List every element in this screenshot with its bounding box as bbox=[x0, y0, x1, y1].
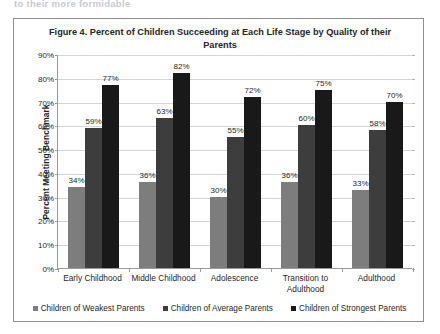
x-axis-category-label: Early Childhood bbox=[57, 273, 128, 284]
bar-value-label: 77% bbox=[102, 74, 118, 83]
bar-group: 36%63%82% bbox=[129, 55, 200, 268]
bar-slot: 36% bbox=[281, 54, 298, 268]
bar-value-label: 60% bbox=[298, 114, 314, 123]
legend-label: Children of Weakest Parents bbox=[41, 304, 145, 313]
y-axis-tick-label: 30% bbox=[38, 193, 54, 202]
bar-slot: 60% bbox=[298, 54, 315, 268]
bar-value-label: 72% bbox=[244, 86, 260, 95]
bar-value-label: 33% bbox=[352, 179, 368, 188]
bar-slot: 34% bbox=[68, 54, 85, 268]
legend-swatch-icon bbox=[33, 306, 38, 311]
bar-value-label: 63% bbox=[156, 107, 172, 116]
bar[interactable] bbox=[139, 182, 156, 268]
bar[interactable] bbox=[227, 137, 244, 268]
bar-slot: 77% bbox=[102, 54, 119, 268]
bar-value-label: 59% bbox=[85, 117, 101, 126]
y-axis-tick-label: 40% bbox=[38, 169, 54, 178]
bar-slot: 72% bbox=[244, 54, 261, 268]
x-axis-tick-mark bbox=[129, 268, 130, 272]
bar[interactable] bbox=[210, 197, 227, 268]
y-axis-tick-label: 80% bbox=[38, 74, 54, 83]
bar-value-label: 75% bbox=[315, 79, 331, 88]
y-axis-tick-label: 10% bbox=[38, 241, 54, 250]
bar-value-label: 36% bbox=[139, 171, 155, 180]
bar-value-label: 36% bbox=[281, 171, 297, 180]
bar[interactable] bbox=[85, 128, 102, 268]
bar-value-label: 30% bbox=[210, 186, 226, 195]
legend-item[interactable]: Children of Weakest Parents bbox=[33, 304, 145, 313]
y-axis-tick-label: 0% bbox=[42, 265, 54, 274]
plot-area: 0%10%20%30%40%50%60%70%80%90% 34%59%77%3… bbox=[57, 55, 412, 269]
y-axis-tick-label: 70% bbox=[38, 98, 54, 107]
legend-label: Children of Strongest Parents bbox=[299, 304, 406, 313]
x-axis-category-labels: Early ChildhoodMiddle ChildhoodAdolescen… bbox=[57, 273, 412, 303]
bar[interactable] bbox=[102, 85, 119, 268]
bar-slot: 30% bbox=[210, 54, 227, 268]
bar-value-label: 58% bbox=[369, 119, 385, 128]
legend-item[interactable]: Children of Average Parents bbox=[163, 304, 273, 313]
bar[interactable] bbox=[315, 90, 332, 268]
legend-label: Children of Average Parents bbox=[171, 304, 273, 313]
y-axis-tick-label: 60% bbox=[38, 122, 54, 131]
bar[interactable] bbox=[68, 187, 85, 268]
bar-value-label: 82% bbox=[173, 62, 189, 71]
x-axis-category-label: Adolescence bbox=[199, 273, 270, 284]
x-axis-tick-mark bbox=[271, 268, 272, 272]
y-axis-tick-label: 50% bbox=[38, 146, 54, 155]
x-axis-tick-mark bbox=[200, 268, 201, 272]
scan-artifact-text: to their more formidable bbox=[14, 0, 224, 9]
figure-frame: Figure 4. Percent of Children Succeeding… bbox=[13, 18, 424, 322]
y-axis-tick-label: 20% bbox=[38, 217, 54, 226]
bar[interactable] bbox=[173, 73, 190, 268]
x-axis-category-label: Middle Childhood bbox=[128, 273, 199, 284]
bar[interactable] bbox=[244, 97, 261, 268]
bar-slot: 55% bbox=[227, 54, 244, 268]
bar[interactable] bbox=[281, 182, 298, 268]
bar-slot: 59% bbox=[85, 54, 102, 268]
bar-value-label: 55% bbox=[227, 126, 243, 135]
bar-value-label: 70% bbox=[386, 91, 402, 100]
x-axis-category-label: Transition to Adulthood bbox=[270, 273, 341, 295]
bar-group: 33%58%70% bbox=[342, 55, 413, 268]
chart-legend: Children of Weakest ParentsChildren of A… bbox=[27, 304, 412, 313]
x-axis-category-label: Adulthood bbox=[341, 273, 412, 284]
x-axis-tick-mark bbox=[413, 268, 414, 272]
legend-swatch-icon bbox=[163, 306, 168, 311]
bar-slot: 82% bbox=[173, 54, 190, 268]
bar-group: 34%59%77% bbox=[58, 55, 129, 268]
bar[interactable] bbox=[352, 190, 369, 268]
bar-slot: 36% bbox=[139, 54, 156, 268]
x-axis-tick-mark bbox=[342, 268, 343, 272]
legend-item[interactable]: Children of Strongest Parents bbox=[291, 304, 406, 313]
bar[interactable] bbox=[156, 118, 173, 268]
x-axis-tick-mark bbox=[58, 268, 59, 272]
bar[interactable] bbox=[369, 130, 386, 268]
bar-slot: 58% bbox=[369, 54, 386, 268]
bar[interactable] bbox=[386, 102, 403, 268]
bar-slot: 33% bbox=[352, 54, 369, 268]
bar-slot: 63% bbox=[156, 54, 173, 268]
chart-title: Figure 4. Percent of Children Succeeding… bbox=[40, 26, 400, 51]
bar-group: 30%55%72% bbox=[200, 55, 271, 268]
bar-group: 36%60%75% bbox=[271, 55, 342, 268]
y-axis-tick-label: 90% bbox=[38, 51, 54, 60]
bar-groups: 34%59%77%36%63%82%30%55%72%36%60%75%33%5… bbox=[58, 55, 412, 268]
bar[interactable] bbox=[298, 125, 315, 268]
bar-value-label: 34% bbox=[68, 176, 84, 185]
legend-swatch-icon bbox=[291, 306, 296, 311]
bar-slot: 70% bbox=[386, 54, 403, 268]
bar-slot: 75% bbox=[315, 54, 332, 268]
